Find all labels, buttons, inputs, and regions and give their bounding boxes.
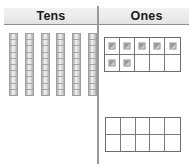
- ten-frame-cell-filled[interactable]: [105, 55, 120, 72]
- ten-frame-cell-filled[interactable]: [165, 38, 180, 55]
- ten-frame-cell-empty[interactable]: [121, 118, 136, 135]
- ten-frame-cell-empty[interactable]: [165, 55, 180, 72]
- tens-rod[interactable]: [88, 33, 97, 96]
- rod-unit-segment: [57, 90, 64, 95]
- ten-frame-cell-empty[interactable]: [121, 135, 136, 152]
- column-header-ones: Ones: [104, 8, 189, 25]
- ten-frame-cell-empty[interactable]: [136, 135, 151, 152]
- ten-frame-cell-empty[interactable]: [106, 118, 121, 135]
- unit-cube: [124, 42, 131, 49]
- top-ten-frame[interactable]: [104, 37, 181, 72]
- tens-rod[interactable]: [41, 33, 50, 96]
- tens-rod[interactable]: [56, 33, 65, 96]
- ten-frame-cell-filled[interactable]: [120, 55, 135, 72]
- unit-cube: [154, 42, 161, 49]
- ten-frame-cell-filled[interactable]: [135, 38, 150, 55]
- rod-unit-segment: [42, 90, 49, 95]
- unit-cube: [109, 59, 116, 66]
- ten-frame-cell-empty[interactable]: [135, 55, 150, 72]
- ten-frame-cell-empty[interactable]: [150, 118, 165, 135]
- column-divider: [97, 6, 99, 164]
- ten-frame-cell-empty[interactable]: [106, 135, 121, 152]
- rod-unit-segment: [89, 90, 96, 95]
- unit-cube: [139, 42, 146, 49]
- ten-frame-cell-filled[interactable]: [105, 38, 120, 55]
- ten-frame-cell-empty[interactable]: [165, 135, 180, 152]
- bottom-ten-frame[interactable]: [105, 117, 181, 152]
- column-header-tens: Tens: [4, 8, 98, 25]
- tens-rod[interactable]: [25, 33, 34, 96]
- ten-frame-cell-filled[interactable]: [120, 38, 135, 55]
- tens-rod-group: [9, 33, 97, 96]
- unit-cube: [124, 59, 131, 66]
- tens-rod[interactable]: [9, 33, 18, 96]
- ten-frame-cell-empty[interactable]: [150, 135, 165, 152]
- ten-frame-cell-empty[interactable]: [136, 118, 151, 135]
- rod-unit-segment: [26, 90, 33, 95]
- place-value-chart: Tens Ones: [0, 0, 193, 168]
- ten-frame-cell-empty[interactable]: [150, 55, 165, 72]
- unit-cube: [109, 42, 116, 49]
- tens-rod[interactable]: [72, 33, 81, 96]
- unit-cube: [169, 42, 176, 49]
- ten-frame-cell-filled[interactable]: [150, 38, 165, 55]
- rod-unit-segment: [73, 90, 80, 95]
- rod-unit-segment: [10, 90, 17, 95]
- ten-frame-cell-empty[interactable]: [165, 118, 180, 135]
